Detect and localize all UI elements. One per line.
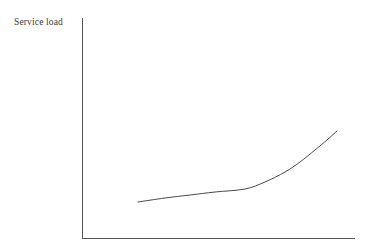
plot-area (0, 0, 367, 252)
service-load-curve (138, 131, 337, 202)
chart-figure: Service load (0, 0, 367, 252)
